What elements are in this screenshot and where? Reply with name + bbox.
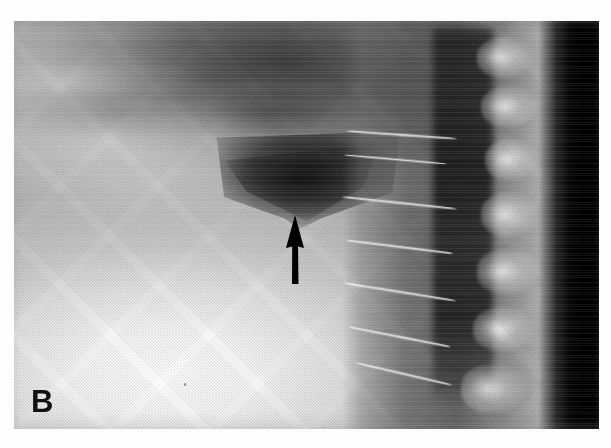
pointer-arrow-icon — [277, 194, 313, 284]
film-artifact-speck — [184, 383, 186, 386]
spinous-process-highlight — [473, 307, 537, 352]
figure-root: B — [0, 0, 611, 448]
panel-label: B — [31, 386, 53, 417]
spinous-process-highlight — [461, 364, 529, 413]
exposure-black-band — [538, 21, 599, 429]
vertebral-column-group — [342, 21, 541, 429]
